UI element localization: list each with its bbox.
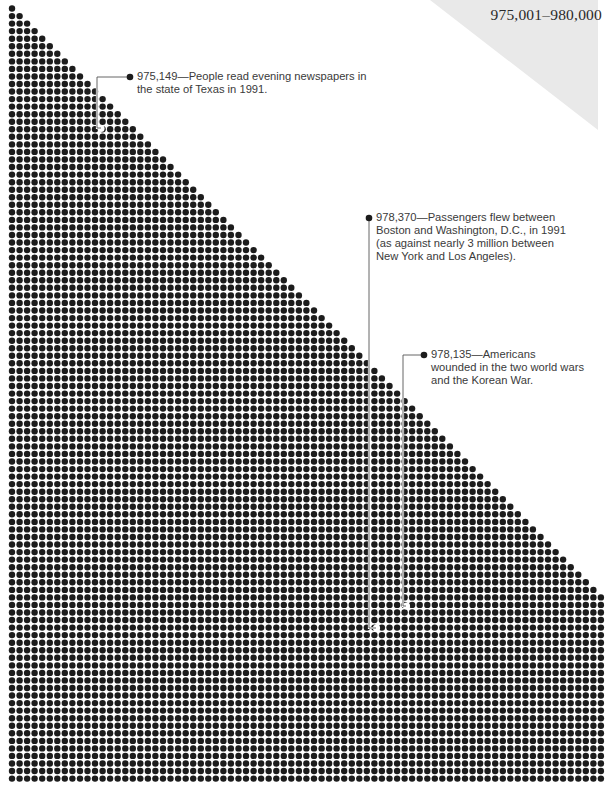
annotation-line: New York and Los Angeles). [376,250,566,263]
annotation-2: 978,370—Passengers flew betweenBoston an… [376,211,566,263]
bullet-icon [366,215,373,222]
annotation-line: (as against nearly 3 million between [376,237,566,250]
annotation-1: 975,149—People read evening newspapers i… [137,70,367,96]
annotation-line: Boston and Washington, D.C., in 1991 [376,224,566,237]
annotation-line: and the Korean War. [431,374,584,387]
annotation-3: 978,135—Americanswounded in the two worl… [431,348,584,387]
bullet-icon [421,352,428,359]
bullet-icon [127,74,134,81]
dot-field [0,0,611,796]
annotation-line: 978,135—Americans [431,348,584,361]
annotation-line: wounded in the two world wars [431,361,584,374]
annotation-line: the state of Texas in 1991. [137,83,367,96]
annotation-line: 975,149—People read evening newspapers i… [137,70,367,83]
annotation-line: 978,370—Passengers flew between [376,211,566,224]
